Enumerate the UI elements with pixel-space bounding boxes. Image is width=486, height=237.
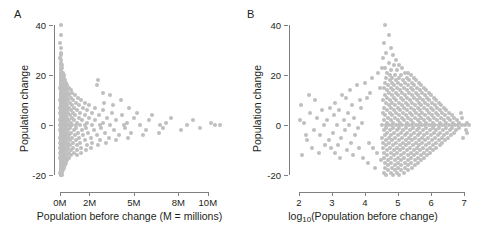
data-point bbox=[352, 116, 356, 120]
x-axis-tick-label: 4 bbox=[362, 197, 367, 208]
data-point bbox=[81, 106, 85, 110]
x-axis-tick bbox=[398, 192, 399, 196]
data-point bbox=[465, 131, 469, 135]
data-point bbox=[90, 111, 94, 115]
data-point bbox=[103, 131, 107, 135]
data-point bbox=[305, 138, 309, 142]
data-point bbox=[360, 121, 364, 125]
data-point bbox=[384, 173, 388, 177]
data-point bbox=[347, 123, 351, 127]
x-axis-tick-label: 2 bbox=[296, 197, 301, 208]
data-point bbox=[209, 121, 213, 125]
x-axis-tick bbox=[332, 192, 333, 196]
y-axis-tick-label: 20 bbox=[35, 70, 46, 81]
data-point bbox=[336, 143, 340, 147]
y-axis-line bbox=[289, 25, 290, 175]
data-point bbox=[375, 151, 379, 155]
data-point bbox=[338, 156, 342, 160]
data-point bbox=[87, 103, 91, 107]
data-point bbox=[391, 173, 395, 177]
data-point bbox=[120, 113, 124, 117]
data-point bbox=[93, 118, 97, 122]
data-point bbox=[395, 68, 399, 72]
data-point bbox=[402, 171, 406, 175]
x-axis-tick bbox=[89, 192, 90, 196]
data-point bbox=[394, 58, 398, 62]
data-point bbox=[391, 53, 395, 57]
data-point bbox=[112, 128, 116, 132]
data-point bbox=[382, 41, 386, 45]
data-point bbox=[79, 98, 83, 102]
data-point bbox=[129, 131, 133, 135]
y-axis-line bbox=[54, 25, 55, 175]
data-point bbox=[99, 126, 103, 130]
data-point bbox=[310, 146, 314, 150]
data-point bbox=[356, 126, 360, 130]
x-axis-tick bbox=[365, 192, 366, 196]
x-axis-tick bbox=[208, 192, 209, 196]
data-point bbox=[383, 66, 387, 70]
panel-a-plot-area: -20020400M2M5M8M10M bbox=[54, 18, 230, 180]
panel-b-x-axis-label-post: (Population before change) bbox=[311, 210, 438, 222]
data-point bbox=[83, 101, 87, 105]
y-axis-tick-label: 0 bbox=[276, 120, 281, 131]
data-point bbox=[89, 136, 93, 140]
data-point bbox=[410, 166, 414, 170]
data-point bbox=[89, 146, 93, 150]
data-point bbox=[361, 156, 365, 160]
data-point bbox=[102, 101, 106, 105]
data-point bbox=[357, 146, 361, 150]
data-point bbox=[95, 133, 99, 137]
data-point bbox=[308, 111, 312, 115]
data-point bbox=[350, 103, 354, 107]
data-point bbox=[77, 136, 81, 140]
data-point bbox=[344, 96, 348, 100]
data-point bbox=[101, 91, 105, 95]
data-point bbox=[110, 111, 114, 115]
data-point bbox=[400, 66, 404, 70]
x-axis-tick-label: 2M bbox=[83, 197, 96, 208]
panel-a-y-axis-label: Population change bbox=[18, 65, 30, 152]
x-axis-tick-label: 6 bbox=[428, 197, 433, 208]
data-point bbox=[169, 116, 173, 120]
data-point bbox=[389, 46, 393, 50]
data-point bbox=[298, 118, 302, 122]
data-point bbox=[59, 173, 63, 177]
panel-b: B Population change log10(Population bef… bbox=[243, 0, 486, 237]
data-point bbox=[384, 51, 388, 55]
data-point bbox=[179, 128, 183, 132]
x-axis-tick-label: 3 bbox=[329, 197, 334, 208]
data-point bbox=[348, 88, 352, 92]
data-point bbox=[157, 131, 161, 135]
data-point bbox=[431, 148, 435, 152]
data-point bbox=[299, 103, 303, 107]
data-point bbox=[83, 138, 87, 142]
panel-a-letter: A bbox=[14, 8, 21, 20]
x-axis-tick bbox=[134, 192, 135, 196]
data-point bbox=[300, 153, 304, 157]
x-axis-tick-label: 10M bbox=[199, 197, 217, 208]
data-point bbox=[117, 133, 121, 137]
data-point bbox=[198, 126, 202, 130]
data-point bbox=[83, 113, 87, 117]
data-point bbox=[78, 111, 82, 115]
x-axis-line bbox=[299, 192, 464, 193]
y-axis-tick-label: -20 bbox=[267, 170, 281, 181]
y-axis-tick bbox=[284, 125, 288, 126]
data-point bbox=[79, 151, 83, 155]
data-point bbox=[93, 106, 97, 110]
data-point bbox=[96, 78, 100, 82]
data-point bbox=[333, 101, 337, 105]
data-point bbox=[322, 123, 326, 127]
data-point bbox=[346, 111, 350, 115]
data-point bbox=[367, 141, 371, 145]
data-point bbox=[461, 136, 465, 140]
data-point bbox=[78, 123, 82, 127]
data-point bbox=[218, 123, 222, 127]
panel-b-y-axis-label: Population change bbox=[251, 65, 263, 152]
x-axis-tick-label: 5M bbox=[127, 197, 140, 208]
data-point bbox=[317, 151, 321, 155]
data-point bbox=[84, 148, 88, 152]
data-point bbox=[323, 143, 327, 147]
data-point bbox=[307, 93, 311, 97]
